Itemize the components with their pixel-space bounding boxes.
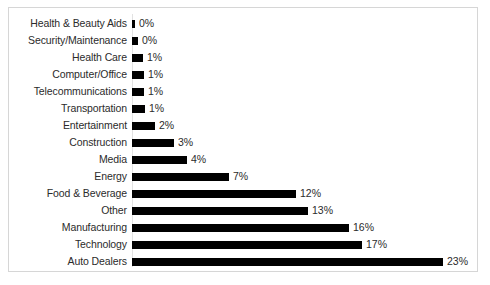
bar (132, 241, 362, 249)
bar-row: Entertainment2% (9, 117, 477, 134)
bar-value-label: 0% (142, 35, 157, 46)
bar-track: 23% (132, 253, 468, 270)
category-label: Food & Beverage (9, 188, 127, 199)
bar-row: Transportation1% (9, 100, 477, 117)
bar-value-label: 0% (139, 18, 154, 29)
bar (132, 20, 135, 28)
category-label: Construction (9, 137, 127, 148)
bar-track: 7% (132, 168, 248, 185)
chart-frame: Health & Beauty Aids0%Security/Maintenan… (8, 7, 478, 272)
bar-row: Computer/Office1% (9, 66, 477, 83)
bar-value-label: 17% (366, 239, 387, 250)
bar (132, 156, 187, 164)
bar-row: Health & Beauty Aids0% (9, 15, 477, 32)
bar (132, 54, 143, 62)
bar-value-label: 7% (233, 171, 248, 182)
bar-row: Auto Dealers23% (9, 253, 477, 270)
bar (132, 37, 138, 45)
bar-track: 12% (132, 185, 321, 202)
category-label: Other (9, 205, 127, 216)
bar-track: 16% (132, 219, 374, 236)
bar-value-label: 4% (191, 154, 206, 165)
category-label: Computer/Office (9, 69, 127, 80)
bar-track: 4% (132, 151, 206, 168)
bar-track: 17% (132, 236, 387, 253)
bar-value-label: 23% (447, 256, 468, 267)
bar-track: 0% (132, 32, 157, 49)
bar (132, 207, 308, 215)
category-label: Energy (9, 171, 127, 182)
bar (132, 258, 443, 266)
category-label: Entertainment (9, 120, 127, 131)
bar (132, 190, 296, 198)
bar-row: Construction3% (9, 134, 477, 151)
bar (132, 224, 349, 232)
bar (132, 88, 144, 96)
bar-row: Media4% (9, 151, 477, 168)
category-label: Technology (9, 239, 127, 250)
bar-value-label: 1% (147, 52, 162, 63)
bar-track: 3% (132, 134, 193, 151)
bar-track: 13% (132, 202, 333, 219)
bar-row: Other13% (9, 202, 477, 219)
category-label: Auto Dealers (9, 256, 127, 267)
bar-track: 1% (132, 100, 164, 117)
bar-track: 2% (132, 117, 174, 134)
bar-value-label: 1% (149, 103, 164, 114)
bar-value-label: 2% (159, 120, 174, 131)
bar-track: 1% (132, 49, 162, 66)
category-label: Manufacturing (9, 222, 127, 233)
bar (132, 139, 174, 147)
bar-track: 1% (132, 66, 163, 83)
bar-track: 0% (132, 15, 154, 32)
bar-row: Security/Maintenance0% (9, 32, 477, 49)
category-label: Transportation (9, 103, 127, 114)
category-label: Health Care (9, 52, 127, 63)
category-label: Health & Beauty Aids (9, 18, 127, 29)
bar (132, 122, 155, 130)
category-label: Telecommunications (9, 86, 127, 97)
bar (132, 173, 229, 181)
bar-row: Energy7% (9, 168, 477, 185)
bar-row: Telecommunications1% (9, 83, 477, 100)
bar-chart-plot-area: Health & Beauty Aids0%Security/Maintenan… (9, 8, 477, 271)
bar-row: Food & Beverage12% (9, 185, 477, 202)
bar (132, 105, 145, 113)
bar-value-label: 1% (148, 69, 163, 80)
bar-row: Technology17% (9, 236, 477, 253)
bar-value-label: 16% (353, 222, 374, 233)
category-label: Media (9, 154, 127, 165)
bar-row: Health Care1% (9, 49, 477, 66)
bar-row: Manufacturing16% (9, 219, 477, 236)
bar-value-label: 13% (312, 205, 333, 216)
bar-track: 1% (132, 83, 163, 100)
bar (132, 71, 144, 79)
category-label: Security/Maintenance (9, 35, 127, 46)
bar-value-label: 3% (178, 137, 193, 148)
bar-value-label: 12% (300, 188, 321, 199)
bar-value-label: 1% (148, 86, 163, 97)
